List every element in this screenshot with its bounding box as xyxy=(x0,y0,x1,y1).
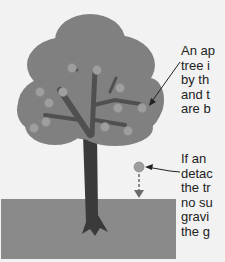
label-apple-tree: An ap tree i by th and t are b xyxy=(181,44,215,117)
label-line: the g xyxy=(181,225,213,240)
falling-apple xyxy=(134,162,144,172)
pointer-arrow-bottom-icon xyxy=(145,164,180,172)
label-falling-apple: If an detac the tr no su gravi the g xyxy=(181,152,213,239)
label-line: detac xyxy=(181,167,213,182)
label-line: by th xyxy=(181,73,215,88)
label-line: no su xyxy=(181,196,213,211)
fall-arrow-icon xyxy=(134,174,144,198)
diagram: An ap tree i by th and t are b If an det… xyxy=(0,0,225,262)
label-line: and t xyxy=(181,88,215,103)
label-line: An ap xyxy=(181,44,215,59)
label-line: are b xyxy=(181,102,215,117)
label-line: If an xyxy=(181,152,213,167)
label-line: tree i xyxy=(181,59,215,74)
label-line: gravi xyxy=(181,210,213,225)
label-line: the tr xyxy=(181,181,213,196)
